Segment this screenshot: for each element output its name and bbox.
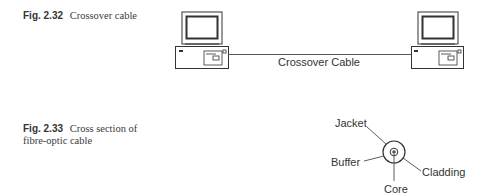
core-label: Core	[384, 183, 408, 195]
crossover-cable-label: Crossover Cable	[278, 56, 360, 68]
fibre-optic-cross-section	[364, 127, 421, 181]
jacket-label: Jacket	[335, 117, 367, 129]
computer-left-icon	[176, 12, 229, 69]
computer-right-icon	[412, 12, 464, 69]
cladding-label: Cladding	[422, 166, 465, 178]
core-circle	[392, 150, 396, 154]
figure-diagrams: Crossover Cable Jacket Buffer Cladding C…	[0, 0, 485, 196]
buffer-label: Buffer	[331, 156, 360, 168]
